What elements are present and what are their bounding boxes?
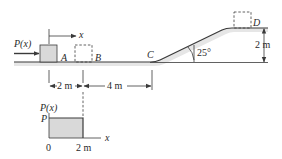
graph-y-tick: P: [40, 113, 47, 124]
block-b-dashed: [75, 45, 92, 62]
graph-area-fill: [49, 118, 83, 138]
work-energy-diagram: P(x) x A B C D 25° 2 m 2 m 4 m P(x) P x …: [0, 0, 282, 159]
angle-label: 25°: [197, 47, 211, 58]
point-b-label: B: [95, 52, 101, 63]
point-c-label: C: [147, 49, 154, 60]
graph-x-tick-0: 0: [46, 142, 51, 153]
x-displacement-label: x: [78, 29, 84, 40]
graph-x-tick-1: 2 m: [76, 142, 92, 153]
force-graph: P(x) P x 0 2 m: [39, 102, 110, 153]
height-dim-label: 2 m: [255, 39, 271, 50]
point-d-label: D: [252, 17, 261, 28]
dim-bc-label: 4 m: [107, 80, 123, 91]
block-a: [40, 45, 57, 62]
force-label: P(x): [13, 38, 32, 50]
graph-xlabel: x: [104, 132, 110, 143]
point-a-label: A: [60, 52, 68, 63]
block-d-dashed: [234, 12, 251, 28]
dim-ab-label: 2 m: [57, 80, 73, 91]
